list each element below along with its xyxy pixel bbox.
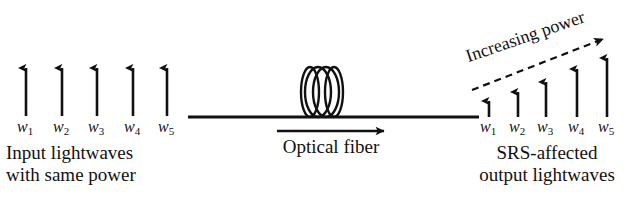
- output-label-w3: w3: [537, 119, 553, 135]
- input-label-w2: w2: [53, 119, 69, 135]
- output-label-w4: w4: [568, 119, 584, 135]
- output-caption-line2: output lightwaves: [462, 164, 631, 186]
- fiber-caption: Optical fiber: [236, 136, 426, 158]
- output-label-w1: w1: [480, 119, 496, 135]
- input-label-w3: w3: [88, 119, 104, 135]
- input-label-w5: w5: [158, 119, 174, 135]
- input-caption: Input lightwaves with same power: [6, 142, 136, 186]
- input-caption-line2: with same power: [6, 164, 136, 186]
- output-caption-line1: SRS-affected: [462, 142, 631, 164]
- output-caption: SRS-affected output lightwaves: [462, 142, 631, 186]
- fiber-coil-icon: [301, 67, 343, 117]
- input-label-w1: w1: [17, 119, 33, 135]
- output-label-w2: w2: [509, 119, 525, 135]
- output-label-w5: w5: [598, 119, 614, 135]
- srs-optical-fiber-diagram: w1 w2 w3 w4 w5 w1 w2 w3 w4 w5 Increasing…: [0, 0, 631, 208]
- input-caption-line1: Input lightwaves: [6, 142, 136, 164]
- input-label-w4: w4: [124, 119, 140, 135]
